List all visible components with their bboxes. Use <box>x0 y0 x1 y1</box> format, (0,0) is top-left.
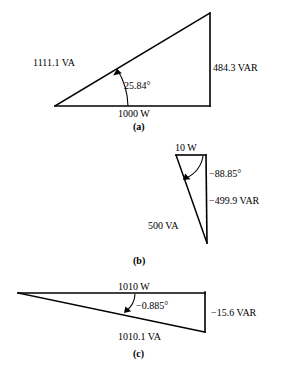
panel-c-apparent-power-label: 1010.1 VA <box>118 331 161 342</box>
panel-a-caption: (a) <box>133 121 145 132</box>
panel-b-apparent-axis <box>176 155 207 243</box>
panel-b-angle-arc <box>186 156 203 178</box>
panel-b-real-power-label: 10 W <box>175 142 197 153</box>
panel-c-reactive-power-label: −15.6 VAR <box>211 307 256 318</box>
panel-c-angle-label: −0.885° <box>136 300 168 311</box>
panel-c-caption: (c) <box>133 348 144 359</box>
panel-c-triangle <box>18 292 205 332</box>
panel-a-apparent-axis <box>55 13 210 106</box>
panel-a-apparent-power-label: 1111.1 VA <box>33 57 75 68</box>
panel-a-triangle <box>55 13 210 106</box>
panel-a-real-power-label: 1000 W <box>118 108 150 119</box>
power-triangle-figure: 1111.1 VA 484.3 VAR 1000 W 25.84° (a) 10… <box>0 0 283 370</box>
panel-b-reactive-power-label: −499.9 VAR <box>209 195 259 206</box>
panel-b-reactive-axis <box>206 155 207 243</box>
panel-b-triangle <box>176 155 207 243</box>
panel-b-caption: (b) <box>133 255 145 266</box>
panel-a-reactive-power-label: 484.3 VAR <box>213 62 258 73</box>
panel-b-angle-label: −88.85° <box>209 168 241 179</box>
panel-c-apparent-axis <box>18 293 205 332</box>
panel-c-real-power-label: 1010 W <box>118 281 150 292</box>
panel-a-angle-label: 25.84° <box>124 80 151 91</box>
panel-b-apparent-power-label: 500 VA <box>148 220 178 231</box>
